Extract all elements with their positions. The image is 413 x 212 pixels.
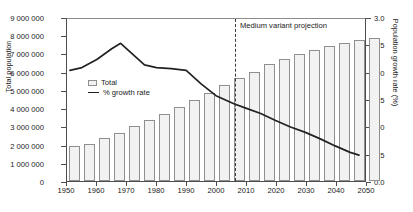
- y-axis-left-tick-label: 7 000 000: [10, 50, 44, 59]
- x-axis-tick-mark: [366, 182, 367, 186]
- legend-label-growth-rate: % growth rate: [103, 88, 150, 98]
- x-axis-tick-mark: [66, 182, 67, 186]
- y-axis-left-tick-label: 9 000 000: [10, 14, 44, 23]
- x-axis-tick-label: 2050: [358, 186, 375, 195]
- x-axis-tick-mark: [336, 182, 337, 186]
- projection-marker-layer: [67, 19, 365, 181]
- projection-divider-line: [235, 19, 236, 181]
- x-axis-tick-label: 2030: [298, 186, 315, 195]
- y-axis-left-tick-label: 8 000 000: [10, 32, 44, 41]
- bar-swatch-icon: [88, 80, 97, 86]
- y-axis-left-tick-label: 0: [40, 178, 44, 187]
- line-swatch-icon: [88, 92, 99, 93]
- y-axis-left-tick-label: 6 000 000: [10, 68, 44, 77]
- x-axis-tick-label: 1970: [118, 186, 135, 195]
- x-axis-tick-mark: [186, 182, 187, 186]
- x-axis-tick-label: 2010: [238, 186, 255, 195]
- y-axis-right-title: Population growth rate (%): [391, 0, 400, 128]
- legend-item-total: Total: [88, 78, 150, 88]
- x-axis-tick-mark: [96, 182, 97, 186]
- bar: [369, 38, 380, 181]
- x-axis-tick-label: 2020: [268, 186, 285, 195]
- population-chart-figure: Total population Population growth rate …: [0, 0, 413, 212]
- y-axis-left-tick-label: 2 000 000: [10, 141, 44, 150]
- y-axis-left-tick-label: 3 000 000: [10, 123, 44, 132]
- y-axis-left-tick-label: 4 000 000: [10, 105, 44, 114]
- x-axis-tick-label: 1980: [148, 186, 165, 195]
- projection-annotation-label: Medium variant projection: [240, 21, 327, 30]
- y-axis-right-tick-label: 3.0: [374, 14, 385, 23]
- x-axis-tick-label: 2040: [328, 186, 345, 195]
- y-axis-right-tick-mark: [366, 18, 371, 19]
- x-axis-tick-mark: [126, 182, 127, 186]
- legend-label-total: Total: [101, 78, 117, 88]
- x-axis-tick-label: 1990: [178, 186, 195, 195]
- x-axis-tick-mark: [216, 182, 217, 186]
- y-axis-left-tick-label: 5 000 000: [10, 86, 44, 95]
- y-axis-left-tick-label: 1 000 000: [10, 159, 44, 168]
- plot-area: Total % growth rate: [66, 18, 366, 182]
- chart-legend: Total % growth rate: [88, 78, 150, 98]
- x-axis-tick-label: 1950: [58, 186, 75, 195]
- x-axis-tick-mark: [246, 182, 247, 186]
- x-axis-tick-label: 2000: [208, 186, 225, 195]
- x-axis-tick-mark: [306, 182, 307, 186]
- x-axis-tick-mark: [156, 182, 157, 186]
- x-axis-tick-label: 1960: [88, 186, 105, 195]
- legend-item-growth-rate: % growth rate: [88, 88, 150, 98]
- x-axis-tick-mark: [276, 182, 277, 186]
